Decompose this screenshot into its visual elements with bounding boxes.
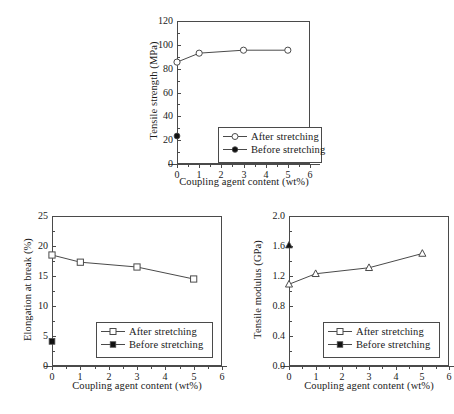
chart-legend: After stretching Before stretching <box>323 322 440 358</box>
circle-open-marker-icon <box>327 325 353 338</box>
chart-panel-elongation-at-break: 05101520250123456Elongation at break (%)… <box>0 200 227 414</box>
legend-item-after: After stretching <box>327 325 435 338</box>
legend-item-before: Before stretching <box>327 338 435 351</box>
x-axis-label: Coupling agent content (wt%) <box>279 380 454 391</box>
chart-legend: After stretching Before stretching <box>218 127 322 163</box>
chart-legend: After stretching Before stretching <box>96 322 213 358</box>
x-axis-label: Coupling agent content (wt%) <box>154 176 334 187</box>
y-axis-label: Tensile strength (MPa) <box>148 0 159 182</box>
chart-panel-tensile-modulus: 0.00.40.81.21.62.00123456Tensile modulus… <box>227 200 454 414</box>
legend-item-before: Before stretching <box>222 143 317 156</box>
legend-item-before: Before stretching <box>100 338 208 351</box>
legend-label-before: Before stretching <box>126 339 203 350</box>
y-axis-label: Elongation at break (%) <box>22 195 33 385</box>
y-axis-label: Tensile modulus (GPa) <box>252 195 263 385</box>
legend-item-after: After stretching <box>100 325 208 338</box>
legend-item-after: After stretching <box>222 130 317 143</box>
circle-filled-marker-icon <box>222 143 248 156</box>
circle-open-marker-icon <box>100 325 126 338</box>
x-axis-label: Coupling agent content (wt%) <box>47 380 227 391</box>
circle-filled-marker-icon <box>100 338 126 351</box>
circle-filled-marker-icon <box>327 338 353 351</box>
legend-label-after: After stretching <box>248 131 319 142</box>
legend-label-before: Before stretching <box>248 144 325 155</box>
legend-label-after: After stretching <box>353 326 424 337</box>
legend-label-before: Before stretching <box>353 339 430 350</box>
circle-open-marker-icon <box>222 130 248 143</box>
chart-panel-tensile-strength: 0204060801001200123456Tensile strength (… <box>0 0 454 200</box>
series-layer <box>0 0 454 200</box>
legend-label-after: After stretching <box>126 326 197 337</box>
